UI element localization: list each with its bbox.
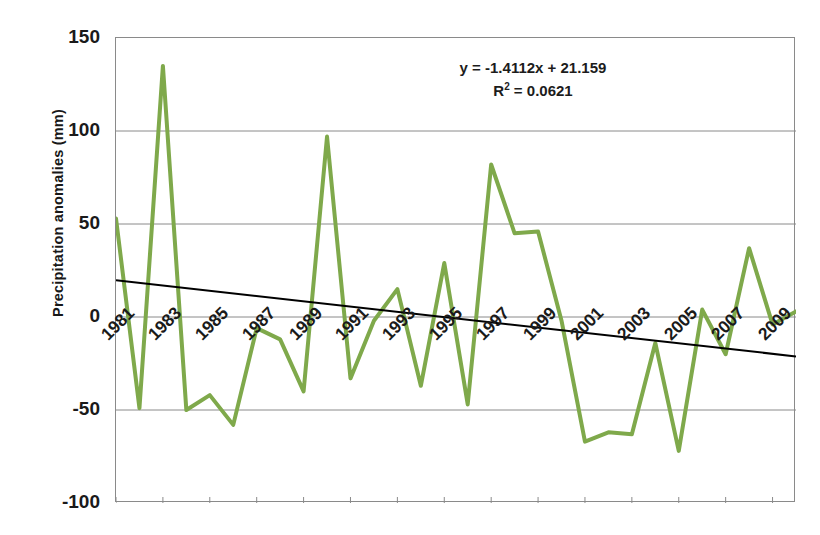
trendline-equation-annotation: y = -1.4112x + 21.159 R2 = 0.0621: [398, 56, 668, 103]
x-axis-tick-label: 2005: [660, 303, 702, 345]
x-axis-tick-label: 2009: [754, 303, 796, 345]
y-axis-tick-label: 50: [44, 213, 100, 232]
trendline-equation-text: y = -1.4112x + 21.159: [398, 56, 668, 79]
x-axis-tick-label: 1987: [238, 303, 280, 345]
x-axis-tick-label: 2007: [707, 303, 749, 345]
r-squared-text: R2 = 0.0621: [398, 79, 668, 102]
x-axis-tick-label: 1991: [331, 303, 373, 345]
x-axis-tick-label: 1997: [472, 303, 514, 345]
x-axis-tick-label: 1983: [144, 303, 186, 345]
x-axis-tick-label: 1981: [97, 303, 139, 345]
x-axis-tick-label: 1995: [425, 303, 467, 345]
x-axis-tick-label: 1985: [191, 303, 233, 345]
x-axis-tick-label: 1999: [519, 303, 561, 345]
x-axis-tick-label: 2001: [566, 303, 608, 345]
x-axis-tick-label: 1993: [378, 303, 420, 345]
precipitation-anomalies-chart: Precipitation anomalies (mm) 150100500-5…: [0, 0, 820, 535]
y-axis-tick-labels: 150100500-50-100: [44, 0, 100, 535]
x-axis-tick-label: 2003: [613, 303, 655, 345]
y-axis-tick-label: -100: [44, 492, 100, 511]
y-axis-tick-label: 0: [44, 306, 100, 325]
y-axis-tick-label: 100: [44, 120, 100, 139]
y-axis-tick-label: 150: [44, 27, 100, 46]
y-axis-tick-label: -50: [44, 399, 100, 418]
r-squared-prefix: R: [493, 82, 504, 99]
x-axis-tick-label: 1989: [285, 303, 327, 345]
r-squared-value: = 0.0621: [510, 82, 573, 99]
